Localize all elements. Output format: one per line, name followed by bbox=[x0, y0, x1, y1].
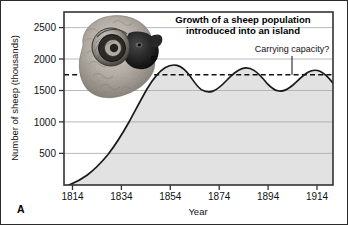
x-tick-labels: 1814 1834 1854 1874 1894 1914 bbox=[61, 191, 328, 202]
x-tick-label-1914: 1914 bbox=[306, 191, 329, 202]
x-tick-label-1814: 1814 bbox=[61, 191, 84, 202]
y-tick-labels: 2500 2000 1500 1000 500 bbox=[34, 22, 57, 159]
x-tick-label-1834: 1834 bbox=[110, 191, 133, 202]
x-tick-label-1874: 1874 bbox=[208, 191, 231, 202]
y-tick-label-1500: 1500 bbox=[34, 85, 57, 96]
carrying-capacity-label: Carrying capacity? bbox=[255, 44, 330, 54]
figure-panel: 2500 2000 1500 1000 500 1814 1834 1854 1… bbox=[0, 0, 348, 225]
y-tick-label-1000: 1000 bbox=[34, 117, 57, 128]
chart-title-line-1: Growth of a sheep population bbox=[175, 14, 311, 25]
chart-canvas: 2500 2000 1500 1000 500 1814 1834 1854 1… bbox=[1, 1, 348, 225]
panel-label: A bbox=[17, 203, 25, 215]
ram-horn bbox=[92, 28, 130, 66]
y-axis-title: Number of sheep (thousands) bbox=[9, 35, 20, 161]
y-tick-label-2500: 2500 bbox=[34, 22, 57, 33]
y-tick-label-500: 500 bbox=[39, 148, 56, 159]
x-axis-title: Year bbox=[188, 206, 207, 217]
x-tick-label-1854: 1854 bbox=[159, 191, 182, 202]
chart-title-line-2: introduced into an island bbox=[186, 25, 300, 36]
y-tick-label-2000: 2000 bbox=[34, 54, 57, 65]
x-tick-label-1894: 1894 bbox=[257, 191, 280, 202]
